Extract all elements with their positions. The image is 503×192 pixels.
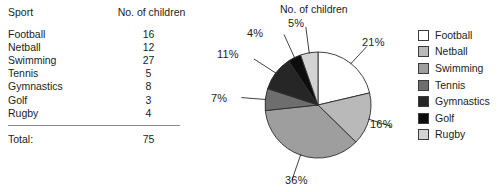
pct-label-tennis: 7% bbox=[211, 92, 227, 104]
legend-label: Gymnastics bbox=[435, 96, 490, 107]
cell-count: 5 bbox=[104, 67, 193, 80]
legend-label: Tennis bbox=[435, 80, 465, 91]
cell-sport: Tennis bbox=[8, 67, 104, 80]
leader-line-golf bbox=[284, 35, 295, 59]
leader-line-rugby bbox=[306, 27, 310, 54]
column-header-sport: Sport bbox=[8, 6, 104, 28]
legend-label: Netball bbox=[435, 46, 468, 57]
table-row: Golf 3 bbox=[8, 94, 193, 107]
cell-count: 12 bbox=[104, 41, 193, 54]
cell-count: 4 bbox=[104, 107, 193, 120]
table-rule-row bbox=[8, 120, 193, 132]
cell-count: 27 bbox=[104, 54, 193, 67]
legend-swatch-icon bbox=[418, 129, 429, 140]
legend-swatch-icon bbox=[418, 80, 429, 91]
legend-swatch-icon bbox=[418, 96, 429, 107]
cell-sport: Swimming bbox=[8, 54, 104, 67]
legend-item-tennis: Tennis bbox=[418, 77, 503, 94]
pct-label-gymnastics: 11% bbox=[217, 48, 239, 60]
cell-count: 3 bbox=[104, 94, 193, 107]
legend-label: Golf bbox=[435, 113, 454, 124]
pct-label-swimming: 36% bbox=[285, 174, 308, 186]
total-value: 75 bbox=[104, 132, 193, 146]
legend-swatch-icon bbox=[418, 63, 429, 74]
pie-chart: 21% 16% 36% 7% 11% 4% 5% bbox=[215, 0, 410, 192]
cell-sport: Rugby bbox=[8, 107, 104, 120]
table-row: Gymnastics 8 bbox=[8, 80, 193, 93]
legend-swatch-icon bbox=[418, 113, 429, 124]
table-row: Netball 12 bbox=[8, 41, 193, 54]
column-header-count: No. of children bbox=[104, 6, 193, 28]
legend-swatch-icon bbox=[418, 30, 429, 41]
legend-item-golf: Golf bbox=[418, 110, 503, 127]
sports-data-table: Sport No. of children Football 16 Netbal… bbox=[8, 6, 193, 146]
cell-sport: Golf bbox=[8, 94, 104, 107]
leader-line-tennis bbox=[241, 98, 266, 100]
legend-label: Rugby bbox=[435, 129, 465, 140]
leader-line-gymnastics bbox=[254, 59, 277, 74]
pct-label-golf: 4% bbox=[247, 27, 263, 39]
table-divider bbox=[8, 125, 180, 126]
table-row: Swimming 27 bbox=[8, 54, 193, 67]
pct-label-rugby: 5% bbox=[288, 17, 304, 29]
table-row: Rugby 4 bbox=[8, 107, 193, 120]
cell-sport: Football bbox=[8, 28, 104, 41]
legend-label: Football bbox=[435, 30, 472, 41]
cell-sport: Netball bbox=[8, 41, 104, 54]
table-header-row: Sport No. of children bbox=[8, 6, 193, 28]
legend-label: Swimming bbox=[435, 63, 483, 74]
chart-legend: Football Netball Swimming Tennis Gymnast… bbox=[418, 27, 503, 143]
pie-svg bbox=[215, 0, 410, 192]
pct-label-netball: 16% bbox=[370, 118, 393, 130]
leader-line-football bbox=[350, 47, 366, 65]
legend-item-gymnastics: Gymnastics bbox=[418, 93, 503, 110]
total-label: Total: bbox=[8, 132, 104, 146]
cell-count: 8 bbox=[104, 80, 193, 93]
table-row: Football 16 bbox=[8, 28, 193, 41]
legend-item-swimming: Swimming bbox=[418, 60, 503, 77]
pct-label-football: 21% bbox=[362, 36, 385, 48]
legend-item-football: Football bbox=[418, 27, 503, 44]
sports-data-table-panel: Sport No. of children Football 16 Netbal… bbox=[0, 0, 215, 192]
legend-item-rugby: Rugby bbox=[418, 127, 503, 144]
cell-sport: Gymnastics bbox=[8, 80, 104, 93]
legend-item-netball: Netball bbox=[418, 44, 503, 61]
legend-swatch-icon bbox=[418, 46, 429, 57]
pie-chart-worksheet: Sport No. of children Football 16 Netbal… bbox=[0, 0, 503, 192]
pie-chart-panel: No. of children 21% 16% 36% 7% 11% 4% 5%… bbox=[215, 0, 503, 192]
table-row: Tennis 5 bbox=[8, 67, 193, 80]
pie-slices bbox=[265, 52, 371, 158]
cell-count: 16 bbox=[104, 28, 193, 41]
table-total-row: Total: 75 bbox=[8, 132, 193, 146]
